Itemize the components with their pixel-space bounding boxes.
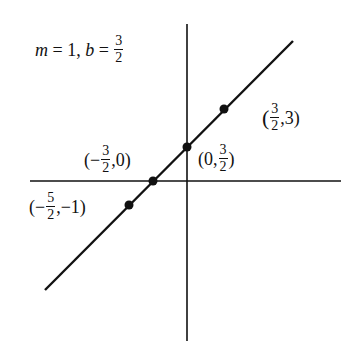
point-label-0-3-2: (0, 3 2 ) (198, 143, 235, 174)
point-label-neg5-2-neg1: (− 5 2 ,−1) (29, 191, 86, 222)
point-neg3-2-0 (149, 177, 158, 186)
slope-variable: m (35, 41, 48, 59)
point-3-2-3 (220, 105, 229, 114)
intercept-fraction: 3 2 (114, 34, 123, 65)
intercept-variable: b (85, 41, 94, 59)
slope-value: = 1, (48, 41, 85, 59)
intercept-equals: = (94, 41, 113, 59)
point-neg5-2-neg1 (125, 201, 134, 210)
point-0-3-2 (183, 143, 192, 152)
point-label-3-2-3: ( 3 2 ,3) (262, 102, 300, 133)
equation-label: m = 1, b = 3 2 (35, 34, 124, 65)
graph-line (45, 41, 293, 290)
point-label-neg3-2-0: (− 3 2 ,0) (84, 144, 131, 175)
